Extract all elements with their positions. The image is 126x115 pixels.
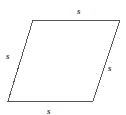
parallelogram-shape bbox=[0, 0, 126, 115]
side-label-bottom: s bbox=[47, 107, 51, 115]
side-label-left: s bbox=[6, 52, 10, 61]
side-label-top: s bbox=[77, 7, 81, 16]
side-label-right: s bbox=[108, 64, 112, 73]
parallelogram-outline bbox=[8, 20, 120, 101]
geometry-figure: s s s s bbox=[0, 0, 126, 115]
